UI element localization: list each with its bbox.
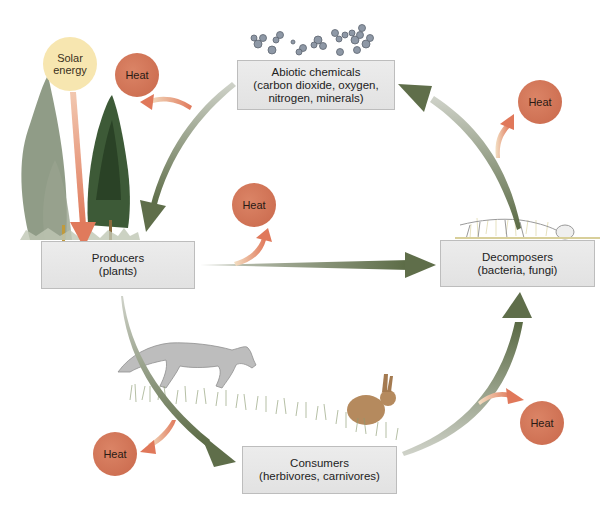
abiotic-line3: nitrogen, minerals) bbox=[268, 92, 363, 105]
decomposers-line2: (bacteria, fungi) bbox=[478, 264, 558, 277]
heat-circle-consumers: Heat bbox=[93, 432, 137, 476]
producers-title: Producers bbox=[92, 252, 144, 265]
solar-line1: Solar bbox=[57, 52, 83, 64]
abiotic-chemicals-box: Abiotic chemicals (carbon dioxide, oxyge… bbox=[237, 60, 395, 110]
solar-energy-circle: Solar energy bbox=[43, 37, 97, 91]
consumers-box: Consumers (herbivores, carnivores) bbox=[242, 446, 397, 494]
heat-arrow-decomposers bbox=[495, 114, 514, 158]
rabbit-illustration bbox=[347, 374, 396, 425]
producers-line2: (plants) bbox=[99, 265, 137, 278]
decomposers-title: Decomposers bbox=[482, 251, 553, 264]
heat-label: Heat bbox=[242, 199, 265, 211]
heat-label: Heat bbox=[125, 69, 148, 81]
wolf-illustration bbox=[118, 343, 256, 388]
heat-circle-consumers-right: Heat bbox=[520, 401, 564, 445]
producers-box: Producers (plants) bbox=[41, 241, 195, 289]
heat-label: Heat bbox=[103, 448, 126, 460]
heat-arrow-producers bbox=[140, 94, 192, 110]
heat-label: Heat bbox=[530, 417, 553, 429]
heat-arrow-consumers bbox=[140, 420, 176, 454]
consumers-title: Consumers bbox=[290, 457, 349, 470]
heat-circle-producers: Heat bbox=[115, 53, 159, 97]
heat-label: Heat bbox=[528, 96, 551, 108]
molecules-illustration bbox=[251, 25, 374, 56]
arrow-consumers-to-decomposers bbox=[402, 292, 532, 456]
heat-arrow-middle bbox=[234, 228, 272, 266]
solar-line2: energy bbox=[53, 64, 87, 76]
arrow-producers-to-decomposers bbox=[200, 252, 436, 278]
heat-circle-middle: Heat bbox=[232, 183, 276, 227]
abiotic-title: Abiotic chemicals bbox=[272, 66, 361, 79]
heat-circle-decomposers: Heat bbox=[518, 80, 562, 124]
arrow-decomposers-to-abiotic bbox=[398, 84, 521, 230]
decomposers-box: Decomposers (bacteria, fungi) bbox=[440, 240, 595, 287]
abiotic-line2: (carbon dioxide, oxygen, bbox=[253, 79, 378, 92]
consumers-line2: (herbivores, carnivores) bbox=[259, 470, 380, 483]
